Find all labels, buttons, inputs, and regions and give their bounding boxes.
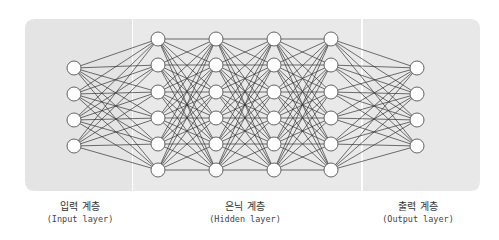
hidden-neuron <box>267 137 281 151</box>
hidden-neuron <box>324 85 338 99</box>
input-layer-label-en: (Input layer) <box>30 213 130 226</box>
hidden-neuron <box>151 163 165 177</box>
input-neuron <box>67 139 81 153</box>
output-neuron <box>410 87 424 101</box>
hidden-neuron <box>209 163 223 177</box>
hidden-neuron <box>324 163 338 177</box>
output-neuron <box>410 61 424 75</box>
input-neuron <box>67 113 81 127</box>
input-neuron <box>67 61 81 75</box>
hidden-neuron <box>267 111 281 125</box>
hidden-neuron <box>209 58 223 72</box>
input-layer-panel <box>25 19 132 191</box>
output-layer-label-en: (Output layer) <box>368 213 468 226</box>
output-layer-label: 출력 계층 (Output layer) <box>368 200 468 226</box>
output-neuron <box>410 113 424 127</box>
input-layer-label-ko: 입력 계층 <box>30 200 130 213</box>
hidden-neuron <box>209 32 223 46</box>
hidden-neuron <box>324 58 338 72</box>
output-layer-label-ko: 출력 계층 <box>368 200 468 213</box>
output-layer-panel <box>363 19 480 191</box>
hidden-neuron <box>151 111 165 125</box>
hidden-neuron <box>209 137 223 151</box>
output-neuron <box>410 139 424 153</box>
hidden-neuron <box>324 32 338 46</box>
hidden-neuron <box>151 32 165 46</box>
hidden-layer-label-ko: 은닉 계층 <box>195 200 295 213</box>
hidden-neuron <box>151 58 165 72</box>
hidden-neuron <box>324 137 338 151</box>
hidden-layer-label-en: (Hidden layer) <box>195 213 295 226</box>
input-neuron <box>67 87 81 101</box>
hidden-neuron <box>267 85 281 99</box>
hidden-neuron <box>267 32 281 46</box>
hidden-neuron <box>151 137 165 151</box>
hidden-neuron <box>209 85 223 99</box>
input-layer-label: 입력 계층 (Input layer) <box>30 200 130 226</box>
hidden-neuron <box>267 163 281 177</box>
hidden-layer-label: 은닉 계층 (Hidden layer) <box>195 200 295 226</box>
hidden-neuron <box>151 85 165 99</box>
hidden-neuron <box>209 111 223 125</box>
hidden-neuron <box>267 58 281 72</box>
hidden-neuron <box>324 111 338 125</box>
